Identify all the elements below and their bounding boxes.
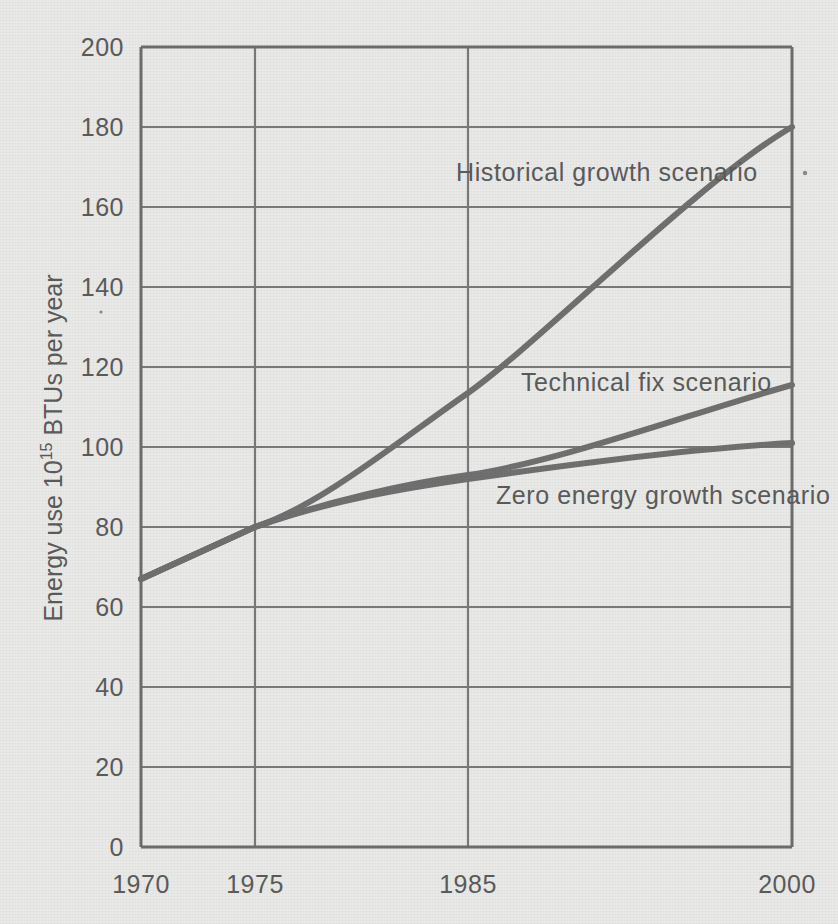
y-tick-labels: 200 180 160 140 120 100 80 60 40 20 0 [81, 33, 124, 861]
y-axis-title: Energy use 1015 BTUs per year [38, 274, 67, 621]
y-tick-160: 160 [81, 193, 124, 221]
y-tick-60: 60 [95, 593, 124, 621]
y-tick-80: 80 [95, 513, 124, 541]
x-tick-1985: 1985 [439, 870, 497, 898]
y-axis-title-tail: BTUs per year [39, 274, 67, 442]
y-tick-180: 180 [81, 113, 124, 141]
series-line-zero-energy-growth [141, 443, 792, 579]
y-axis-title-exponent: 15 [38, 442, 55, 460]
energy-use-line-chart: 200 180 160 140 120 100 80 60 40 20 0 19… [0, 0, 838, 924]
annotation-zero-energy-growth-scenario: Zero energy growth scenario [496, 481, 830, 509]
annotation-historical-growth-scenario: Historical growth scenario [456, 158, 758, 186]
print-speck-2 [99, 310, 102, 313]
horizontal-gridlines [141, 127, 792, 767]
y-tick-140: 140 [81, 273, 124, 301]
figure-canvas: 200 180 160 140 120 100 80 60 40 20 0 19… [0, 0, 838, 924]
series-line-historical-growth [141, 127, 792, 579]
y-tick-20: 20 [95, 753, 124, 781]
print-speck [803, 171, 807, 175]
y-tick-100: 100 [81, 433, 124, 461]
x-tick-1975: 1975 [226, 870, 284, 898]
y-tick-120: 120 [81, 353, 124, 381]
y-tick-200: 200 [81, 33, 124, 61]
y-axis-title-base: Energy use 10 [39, 460, 67, 621]
annotation-technical-fix-scenario: Technical fix scenario [521, 368, 772, 396]
y-tick-40: 40 [95, 673, 124, 701]
x-tick-2000: 2000 [758, 870, 816, 898]
y-tick-0: 0 [110, 833, 124, 861]
svg-text:Energy use 1015 BTUs per year: Energy use 1015 BTUs per year [38, 274, 67, 621]
x-tick-labels: 1970 1975 1985 2000 [112, 870, 816, 898]
x-tick-1970: 1970 [112, 870, 170, 898]
